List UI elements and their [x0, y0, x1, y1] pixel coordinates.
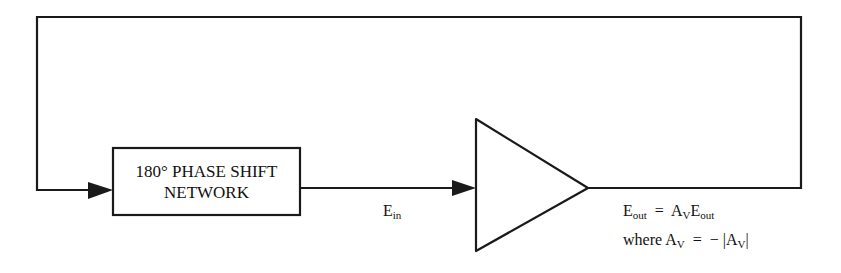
- phase-shift-network-label: 180° PHASE SHIFT NETWORK: [113, 148, 300, 215]
- gain-condition: where AV = − |AV|: [623, 231, 749, 250]
- phase-shift-label-line1: 180° PHASE SHIFT: [136, 161, 278, 182]
- ein-label: Ein: [383, 202, 401, 221]
- arrow-into-amplifier-icon: [452, 180, 476, 196]
- output-equation: Eout = AVEout: [623, 202, 714, 221]
- amplifier-triangle-icon: [476, 119, 588, 251]
- phase-shift-label-line2: NETWORK: [164, 182, 249, 203]
- arrow-into-phase-network-icon: [88, 182, 113, 199]
